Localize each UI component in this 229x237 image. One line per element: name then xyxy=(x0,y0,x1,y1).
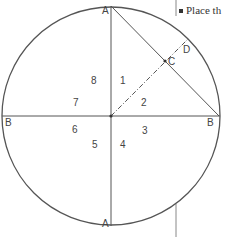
label-D: D xyxy=(183,44,190,55)
region-6: 6 xyxy=(72,124,78,135)
label-A-top: A xyxy=(102,5,109,16)
region-1: 1 xyxy=(120,75,126,86)
caption: Place th xyxy=(179,4,221,16)
region-5: 5 xyxy=(92,139,98,150)
point-C xyxy=(163,59,166,62)
region-3: 3 xyxy=(142,125,148,136)
region-2: 2 xyxy=(141,97,147,108)
label-C: C xyxy=(168,56,175,67)
label-B-left: B xyxy=(5,117,12,128)
region-8: 8 xyxy=(91,75,97,86)
region-4: 4 xyxy=(120,139,126,150)
label-B-right: B xyxy=(207,117,214,128)
center-point xyxy=(109,114,112,117)
region-7: 7 xyxy=(73,97,79,108)
caption-text: Place th xyxy=(186,4,221,16)
circle-diagram: A A B B C D 1 2 3 4 5 6 7 8 xyxy=(0,0,229,237)
label-A-bottom: A xyxy=(102,218,109,229)
bullet-icon xyxy=(179,9,183,13)
